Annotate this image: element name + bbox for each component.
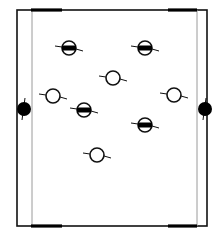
marker-right-tail [76,49,83,51]
frame-outline [17,10,207,226]
barred-circle-marker [70,103,98,117]
marker-right-tail [60,97,67,99]
marker-left-tail [99,76,106,77]
marker-right-tail [152,49,159,51]
bar-icon [138,46,152,51]
side-dots [17,98,212,120]
bar-icon [138,123,152,128]
marker-right-tail [91,111,98,113]
inner-lines [32,10,197,226]
barred-circle-marker [131,118,159,132]
marker-right-tail [120,79,127,81]
marker-left-tail [70,108,77,109]
marker-left-tail [131,123,138,124]
marker-right-tail [104,156,111,158]
diagram-canvas [0,0,224,237]
open-circle-marker [160,88,188,102]
open-circle-marker [39,89,67,103]
marker-left-tail [39,94,46,95]
bar-icon [62,46,76,51]
circle-icon [46,89,60,103]
circle-icon [167,88,181,102]
field-frame [17,10,207,226]
marker-left-tail [83,153,90,154]
marker-left-tail [160,93,167,94]
barred-circle-marker [55,41,83,55]
markers [39,41,188,162]
open-circle-marker [99,71,127,85]
barred-circle-marker [131,41,159,55]
marker-left-tail [131,46,138,47]
side-dot-left [17,98,31,120]
open-circle-marker [83,148,111,162]
marker-right-tail [152,126,159,128]
filled-dot-icon [198,102,212,116]
filled-dot-icon [17,102,31,116]
side-dot-right [198,98,212,120]
marker-left-tail [55,46,62,47]
bar-icon [77,108,91,113]
edge-bars [31,10,197,226]
circle-icon [90,148,104,162]
marker-right-tail [181,96,188,98]
circle-icon [106,71,120,85]
